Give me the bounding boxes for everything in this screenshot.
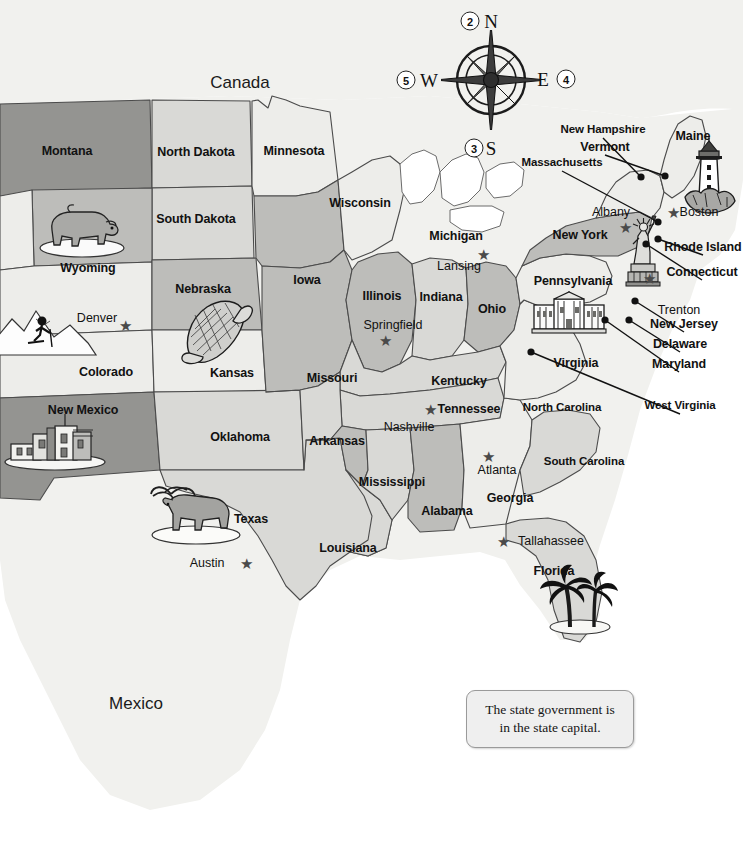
state-label-delaware: Delaware <box>653 338 707 351</box>
legend-text: The state government is in the state cap… <box>477 701 622 737</box>
compass-west-label: W <box>420 71 438 90</box>
compass-rose <box>441 30 541 130</box>
state-label-west-virginia: West Virginia <box>644 400 715 412</box>
bison-illustration <box>36 200 128 262</box>
state-label-tennessee: Tennessee <box>438 403 501 416</box>
state-label-montana: Montana <box>42 145 93 158</box>
state-label-south-dakota: South Dakota <box>156 213 235 226</box>
capital-label-atlanta: Atlanta <box>478 464 517 477</box>
legend-line-2: in the state capital. <box>499 720 600 735</box>
capital-star-icon-trenton: ★ <box>643 271 656 286</box>
state-label-illinois: Illinois <box>363 290 402 303</box>
capital-label-trenton: Trenton <box>658 304 701 317</box>
state-label-missouri: Missouri <box>307 372 358 385</box>
state-label-north-dakota: North Dakota <box>157 146 234 159</box>
state-label-nebraska: Nebraska <box>175 283 231 296</box>
compass-east-label: E <box>537 70 549 89</box>
state-label-new-mexico: New Mexico <box>48 404 119 417</box>
state-label-south-carolina: South Carolina <box>544 456 624 468</box>
state-label-texas: Texas <box>234 513 268 526</box>
country-label-mexico: Mexico <box>109 695 163 712</box>
state-label-georgia: Georgia <box>487 492 534 505</box>
capital-star-icon-albany: ★ <box>619 220 632 235</box>
compass-callout-number-4[interactable]: 4 <box>557 70 576 89</box>
skier-illustration <box>0 297 102 363</box>
state-label-oklahoma: Oklahoma <box>210 431 270 444</box>
state-label-indiana: Indiana <box>419 291 462 304</box>
state-label-new-hampshire: New Hampshire <box>561 124 646 136</box>
capital-star-icon-springfield: ★ <box>379 333 392 348</box>
country-label-canada: Canada <box>210 74 270 91</box>
state-label-new-jersey: New Jersey <box>650 318 718 331</box>
state-label-mississippi: Mississippi <box>359 476 425 489</box>
capital-star-icon-austin: ★ <box>240 556 253 571</box>
state-label-maryland: Maryland <box>652 358 706 371</box>
state-label-minnesota: Minnesota <box>264 145 325 158</box>
state-label-wisconsin: Wisconsin <box>329 197 391 210</box>
state-label-colorado: Colorado <box>79 366 133 379</box>
state-label-wyoming: Wyoming <box>60 262 115 275</box>
compass-north-label: N <box>484 12 498 31</box>
state-label-arkansas: Arkansas <box>309 435 365 448</box>
capital-label-boston: Boston <box>680 206 719 219</box>
capital-star-icon-lansing: ★ <box>477 247 490 262</box>
state-label-alabama: Alabama <box>421 505 472 518</box>
state-label-new-york: New York <box>552 229 607 242</box>
white-house-illustration <box>530 291 608 341</box>
state-label-virginia: Virginia <box>554 357 599 370</box>
legend-callout-box: The state government is in the state cap… <box>466 690 634 748</box>
capital-star-icon-tallahassee: ★ <box>497 534 510 549</box>
capital-star-icon-denver: ★ <box>119 318 132 333</box>
compass-callout-number-2[interactable]: 2 <box>461 12 480 31</box>
state-label-north-carolina: North Carolina <box>523 402 601 414</box>
capital-star-icon-nashville: ★ <box>424 402 437 417</box>
state-label-pennsylvania: Pennsylvania <box>534 275 613 288</box>
adobe-pueblo-illustration <box>3 412 107 476</box>
compass-south-label: S <box>486 139 497 158</box>
capital-label-springfield: Springfield <box>363 319 422 332</box>
compass-callout-number-5[interactable]: 5 <box>397 71 416 90</box>
state-label-kentucky: Kentucky <box>431 375 486 388</box>
capital-label-tallahassee: Tallahassee <box>518 535 584 548</box>
capital-label-albany: Albany <box>592 206 630 219</box>
state-label-connecticut: Connecticut <box>666 266 737 279</box>
us-states-map: .st{stroke:#4b4b4b;stroke-width:1.1;stro… <box>0 0 743 858</box>
state-label-michigan: Michigan <box>429 230 482 243</box>
state-label-iowa: Iowa <box>293 274 320 287</box>
state-label-louisiana: Louisiana <box>319 542 376 555</box>
state-label-ohio: Ohio <box>478 303 506 316</box>
state-label-rhode-island: Rhode Island <box>664 241 741 254</box>
state-label-vermont: Vermont <box>580 141 629 154</box>
state-label-maine: Maine <box>676 130 711 143</box>
longhorn-steer-illustration <box>147 480 245 550</box>
legend-line-1: The state government is <box>485 702 614 717</box>
capital-label-austin: Austin <box>190 557 225 570</box>
state-label-kansas: Kansas <box>210 367 254 380</box>
state-label-massachusetts: Massachusetts <box>521 157 602 169</box>
capital-label-denver: Denver <box>77 312 117 325</box>
capital-star-icon-atlanta: ★ <box>482 449 495 464</box>
capital-label-nashville: Nashville <box>384 421 435 434</box>
capital-star-icon-boston: ★ <box>667 205 680 220</box>
corn-illustration <box>177 295 255 371</box>
compass-callout-number-3[interactable]: 3 <box>465 139 484 158</box>
capital-label-lansing: Lansing <box>437 260 481 273</box>
state-label-florida: Florida <box>534 565 575 578</box>
